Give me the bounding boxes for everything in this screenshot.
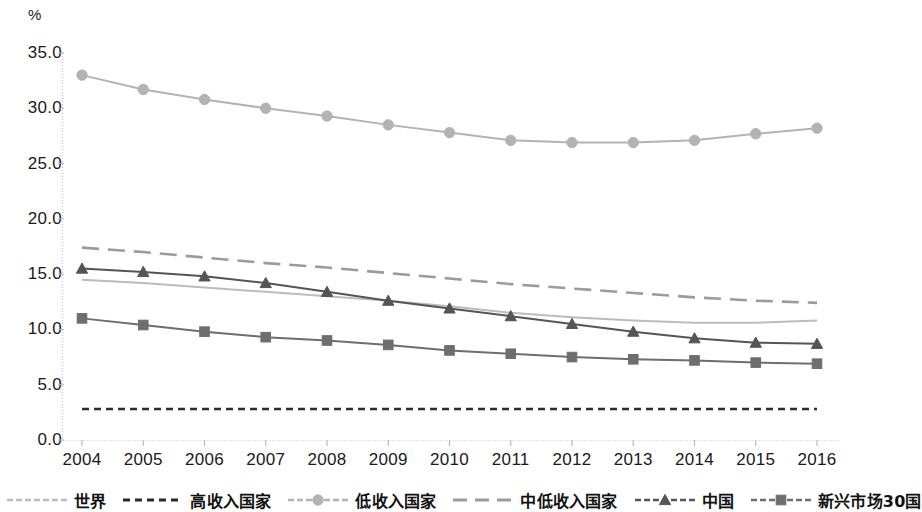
x-axis-tick-label: 2005 <box>124 450 163 470</box>
legend-label: 世界 <box>74 488 106 512</box>
data-point-marker <box>506 135 516 145</box>
x-axis-tick-label: 2010 <box>430 450 469 470</box>
legend-swatch-solid-line-triangle-marker <box>634 491 696 509</box>
data-point-marker <box>200 327 210 337</box>
series-line <box>82 318 817 363</box>
data-point-marker <box>383 120 393 130</box>
x-axis-tick-label: 2008 <box>307 450 346 470</box>
series-line <box>82 280 817 323</box>
data-point-marker <box>261 103 271 113</box>
data-point-marker <box>812 123 822 133</box>
data-point-marker <box>812 359 822 369</box>
data-point-marker <box>445 346 455 356</box>
legend-swatch-solid-line-circle-marker <box>287 491 349 509</box>
data-point-marker <box>689 135 699 145</box>
data-point-marker <box>690 356 700 366</box>
series-2 <box>77 70 822 148</box>
x-axis-tick-label: 2009 <box>369 450 408 470</box>
data-point-marker <box>444 127 454 137</box>
x-axis-tick-label: 2006 <box>185 450 224 470</box>
data-point-marker <box>751 358 761 368</box>
legend-item[interactable]: 中低收入国家 <box>452 488 617 512</box>
data-point-marker <box>199 94 209 104</box>
legend-label: 中低收入国家 <box>520 488 617 512</box>
data-point-marker <box>659 494 670 504</box>
data-point-marker <box>567 352 577 362</box>
legend-label: 低收入国家 <box>355 488 436 512</box>
data-point-marker <box>138 320 148 330</box>
x-axis-tick-label: 2012 <box>552 450 591 470</box>
x-axis-tick-label: 2015 <box>736 450 775 470</box>
x-axis-tick-label: 2011 <box>492 450 530 470</box>
legend-swatch-solid-line-square-marker <box>750 491 812 509</box>
legend-item[interactable]: 世界 <box>6 488 106 512</box>
legend-item[interactable]: 新兴市场30国 <box>750 488 922 512</box>
data-point-marker <box>261 332 271 342</box>
data-point-marker <box>383 340 393 350</box>
data-point-marker <box>567 137 577 147</box>
data-point-marker <box>313 494 323 504</box>
data-point-marker <box>506 349 516 359</box>
legend-item[interactable]: 低收入国家 <box>287 488 436 512</box>
data-point-marker <box>628 354 638 364</box>
legend-swatch-long-dash-line-gray <box>452 491 514 509</box>
data-point-marker <box>322 111 332 121</box>
data-point-marker <box>628 137 638 147</box>
data-point-marker <box>77 314 87 324</box>
x-axis-tick-label: 2013 <box>614 450 653 470</box>
legend-swatch-dashed-line-dark <box>122 491 184 509</box>
data-point-marker <box>77 70 87 80</box>
x-axis-tick-label: 2016 <box>797 450 836 470</box>
legend-label: 新兴市场30国 <box>818 488 922 512</box>
data-point-marker <box>776 495 786 505</box>
legend-item[interactable]: 中国 <box>634 488 734 512</box>
legend-swatch-solid-line-light <box>6 491 68 509</box>
data-point-marker <box>138 84 148 94</box>
data-point-marker <box>322 336 332 346</box>
chart-legend: 世界高收入国家低收入国家中低收入国家中国新兴市场30国 <box>0 487 849 512</box>
x-axis-tick-label: 2007 <box>246 450 285 470</box>
legend-item[interactable]: 高收入国家 <box>122 488 271 512</box>
legend-label: 高收入国家 <box>190 488 271 512</box>
data-point-marker <box>751 129 761 139</box>
x-axis-tick-label: 2014 <box>675 450 714 470</box>
series-4 <box>76 263 822 348</box>
legend-label: 中国 <box>702 488 734 512</box>
series-0 <box>82 280 817 323</box>
x-axis-tick-label: 2004 <box>62 450 101 470</box>
